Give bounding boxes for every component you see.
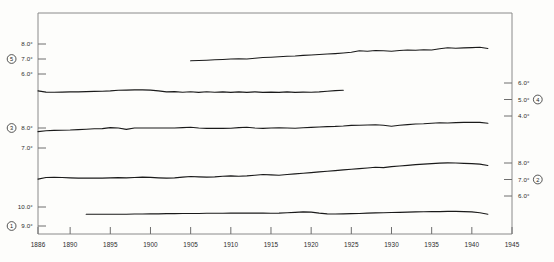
- series-line-3: [38, 122, 488, 131]
- x-tick-label: 1945: [505, 241, 520, 248]
- x-tick-label: 1935: [424, 241, 439, 248]
- series-line-4: [38, 90, 343, 92]
- x-tick-label: 1886: [31, 241, 46, 248]
- series-badge-label-3: 3: [10, 125, 13, 131]
- left-axis-tick-label: 10.0°: [18, 203, 34, 210]
- series-line-2: [38, 163, 488, 179]
- x-tick-label: 1905: [183, 241, 198, 248]
- chart-page: 1886189018951900190519101915192019251930…: [0, 0, 554, 262]
- left-axis-tick-label: 9.0°: [21, 222, 33, 229]
- left-axis-tick-label: 6.0°: [21, 70, 33, 77]
- series-badge-label-5: 5: [10, 56, 13, 62]
- x-tick-label: 1920: [304, 241, 319, 248]
- x-axis-ticks: [38, 227, 512, 234]
- x-tick-label: 1940: [465, 241, 480, 248]
- x-tick-label: 1890: [63, 241, 78, 248]
- series-line-1: [86, 211, 488, 214]
- series-line-5: [191, 47, 488, 61]
- plot-frame: [38, 13, 512, 234]
- x-axis-tick-labels: 1886189018951900190519101915192019251930…: [31, 241, 520, 248]
- right-axis-ticks: 6.0°5.0°44.0°8.0°7.0°26.0°: [504, 79, 542, 199]
- x-tick-label: 1910: [224, 241, 239, 248]
- series-badge-label-2: 2: [536, 177, 539, 183]
- line-chart: 1886189018951900190519101915192019251930…: [0, 0, 554, 262]
- x-tick-label: 1915: [264, 241, 279, 248]
- data-series-group: [38, 47, 488, 214]
- right-axis-tick-label: 6.0°: [518, 79, 530, 86]
- x-tick-label: 1930: [384, 241, 399, 248]
- left-axis-tick-label: 7.0°: [21, 144, 33, 151]
- x-tick-label: 1925: [344, 241, 359, 248]
- right-axis-tick-label: 5.0°: [518, 96, 530, 103]
- left-axis-ticks: 8.0°7.0°56.0°8.0°37.0°10.0°9.0°1: [7, 40, 46, 230]
- right-axis-tick-label: 7.0°: [518, 176, 530, 183]
- left-axis-tick-label: 8.0°: [21, 124, 33, 131]
- left-axis-tick-label: 8.0°: [21, 40, 33, 47]
- x-tick-label: 1895: [103, 241, 118, 248]
- right-axis-tick-label: 6.0°: [518, 192, 530, 199]
- series-badge-label-1: 1: [10, 223, 13, 229]
- left-axis-tick-label: 7.0°: [21, 55, 33, 62]
- x-tick-label: 1900: [143, 241, 158, 248]
- series-badge-label-4: 4: [536, 97, 539, 103]
- right-axis-tick-label: 8.0°: [518, 159, 530, 166]
- right-axis-tick-label: 4.0°: [518, 112, 530, 119]
